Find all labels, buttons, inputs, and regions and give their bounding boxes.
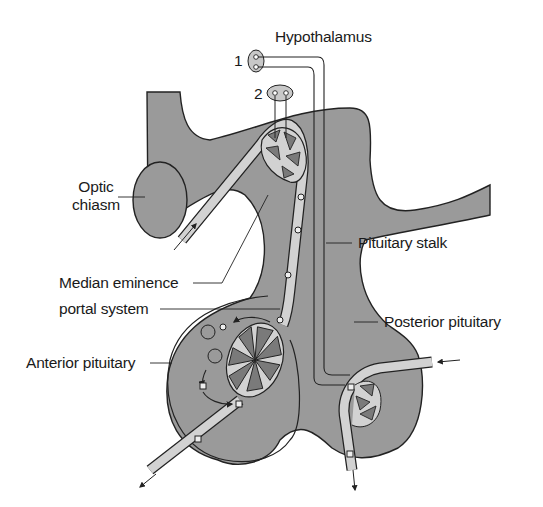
label-nucleus-2: 2 [254, 85, 262, 103]
nucleus-2 [267, 85, 293, 101]
label-nucleus-1: 1 [234, 52, 242, 70]
label-optic-chiasm-line1: Optic [72, 178, 120, 196]
label-median-eminence: Median eminence [59, 274, 178, 292]
label-pituitary-stalk: Pituitary stalk [358, 234, 447, 252]
optic-chiasm [133, 162, 187, 238]
hypothalamus-tissue [147, 92, 490, 464]
hypothalamic-pituitary-diagram [0, 0, 543, 507]
label-posterior-pituitary: Posterior pituitary [384, 313, 501, 331]
label-anterior-pituitary: Anterior pituitary [26, 354, 135, 372]
label-optic-chiasm-line2: chiasm [72, 196, 120, 214]
label-portal-system: portal system [59, 300, 149, 318]
label-optic-chiasm: Optic chiasm [72, 178, 120, 214]
label-hypothalamus: Hypothalamus [275, 28, 372, 46]
